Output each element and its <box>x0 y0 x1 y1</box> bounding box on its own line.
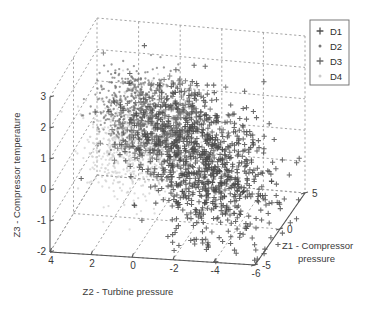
legend-marker-dot <box>319 45 322 48</box>
y-axis-title-line1: Z1 - Compressor <box>282 240 353 251</box>
legend-item-label: D2 <box>330 41 342 52</box>
x-tick-label: 4 <box>48 255 54 266</box>
legend-item-label: D1 <box>330 26 342 37</box>
x-tick-label: -4 <box>211 265 220 276</box>
x-axis-title: Z2 - Turbine pressure <box>83 286 174 297</box>
z-tick-label: 3 <box>40 91 46 102</box>
z-tick-label: 0 <box>40 184 46 195</box>
x-tick-label: 0 <box>130 260 136 271</box>
legend-item-label: D4 <box>330 71 342 82</box>
figure-3d-scatter: 3210-1-2 420-2-4-6 -505 Z3 - Compressor … <box>0 0 370 315</box>
legend: D1D2D3D4 <box>310 20 349 85</box>
legend-item-label: D3 <box>330 56 342 67</box>
z-tick-labels: 3210-1-2 <box>37 91 46 257</box>
x-tick-label: -6 <box>252 268 261 279</box>
x-tick-label: 2 <box>89 258 95 269</box>
y-tick-label: 0 <box>287 224 293 235</box>
z-axis-title: Z3 - Compressor temperature <box>11 112 22 237</box>
legend-marker-dot <box>319 75 322 78</box>
x-tick-label: -2 <box>170 263 179 274</box>
y-tick-label: -5 <box>262 260 271 271</box>
y-axis-title-line2: pressure <box>298 253 335 264</box>
z-tick-label: -2 <box>37 246 46 257</box>
scatter-plot-canvas: 3210-1-2 420-2-4-6 -505 Z3 - Compressor … <box>0 0 370 315</box>
z-tick-label: -1 <box>37 215 46 226</box>
x-axis-line <box>50 252 255 265</box>
z-tick-label: 1 <box>40 153 46 164</box>
z-tick-label: 2 <box>40 122 46 133</box>
y-tick-label: 5 <box>312 188 318 199</box>
